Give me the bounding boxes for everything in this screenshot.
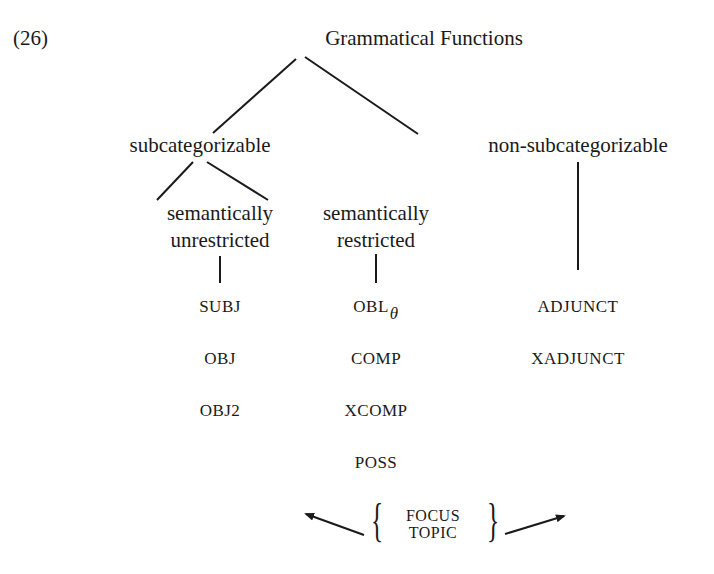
node-non-subcategorizable: non-subcategorizable bbox=[488, 133, 668, 157]
edge-root-nonsubcat bbox=[305, 57, 418, 134]
function-adjunct: ADJUNCT bbox=[538, 295, 619, 319]
discourse-functions: FOCUS TOPIC bbox=[406, 507, 460, 541]
node-subcategorizable: subcategorizable bbox=[129, 133, 270, 157]
function-xcomp: XCOMP bbox=[345, 399, 408, 423]
function-poss: POSS bbox=[355, 451, 398, 475]
function-obl-theta: OBLθ bbox=[353, 295, 398, 319]
node-restricted-line1: semantically bbox=[323, 201, 429, 225]
function-topic: TOPIC bbox=[406, 524, 460, 541]
example-number: (26) bbox=[13, 26, 48, 50]
edge-root-subcat bbox=[213, 59, 296, 133]
function-obj2: OBJ2 bbox=[200, 399, 241, 423]
edge-subcat-restricted bbox=[207, 162, 268, 200]
left-brace-icon: { bbox=[371, 498, 383, 544]
arrow-right bbox=[505, 516, 564, 534]
function-comp: COMP bbox=[351, 347, 401, 371]
edge-subcat-unrestricted bbox=[157, 162, 193, 200]
function-xadjunct: XADJUNCT bbox=[531, 347, 625, 371]
root-node: Grammatical Functions bbox=[325, 26, 523, 50]
tree-edges bbox=[0, 0, 714, 574]
right-brace-icon: } bbox=[487, 498, 499, 544]
node-unrestricted-line2: unrestricted bbox=[170, 228, 269, 252]
node-restricted-line2: restricted bbox=[337, 228, 415, 252]
function-obj: OBJ bbox=[204, 347, 236, 371]
function-obl: OBL bbox=[353, 297, 389, 316]
theta-subscript: θ bbox=[390, 304, 399, 323]
function-focus: FOCUS bbox=[406, 507, 460, 524]
function-subj: SUBJ bbox=[199, 295, 241, 319]
node-unrestricted-line1: semantically bbox=[167, 201, 273, 225]
arrow-left bbox=[306, 514, 364, 535]
